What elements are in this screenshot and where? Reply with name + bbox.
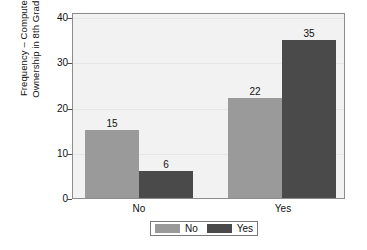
y-tick-mark-0 bbox=[67, 199, 72, 200]
legend-label-no: No bbox=[185, 224, 198, 234]
gridline-40 bbox=[73, 18, 344, 19]
bar-yes-no[interactable] bbox=[228, 98, 282, 198]
y-axis-title-line1: Frequency – Computer bbox=[18, 0, 29, 96]
x-axis-label-yes: Yes bbox=[256, 203, 310, 214]
plot-inner bbox=[73, 14, 344, 198]
bar-no-yes[interactable] bbox=[139, 171, 193, 198]
y-axis-title: Frequency – Computer Ownership in 8th Gr… bbox=[18, 0, 41, 140]
bar-value-label-yes-yes: 35 bbox=[282, 29, 336, 39]
legend-item-no[interactable]: No bbox=[155, 224, 198, 234]
bar-no-no[interactable] bbox=[85, 130, 139, 198]
y-axis-title-line2: Ownership in 8th Grade bbox=[29, 0, 41, 140]
legend-swatch-yes-icon bbox=[207, 224, 232, 233]
bar-value-label-no-no: 15 bbox=[85, 119, 139, 129]
legend-swatch-no-icon bbox=[155, 224, 180, 233]
bar-chart: Frequency – Computer Ownership in 8th Gr… bbox=[0, 0, 367, 250]
x-axis-label-no: No bbox=[112, 203, 166, 214]
bar-value-label-no-yes: 6 bbox=[139, 160, 193, 170]
legend-item-yes[interactable]: Yes bbox=[207, 224, 253, 234]
bar-yes-yes[interactable] bbox=[282, 40, 336, 198]
plot-area bbox=[72, 13, 345, 199]
legend-label-yes: Yes bbox=[237, 224, 253, 234]
legend: No Yes bbox=[150, 221, 258, 236]
bar-value-label-yes-no: 22 bbox=[228, 87, 282, 97]
